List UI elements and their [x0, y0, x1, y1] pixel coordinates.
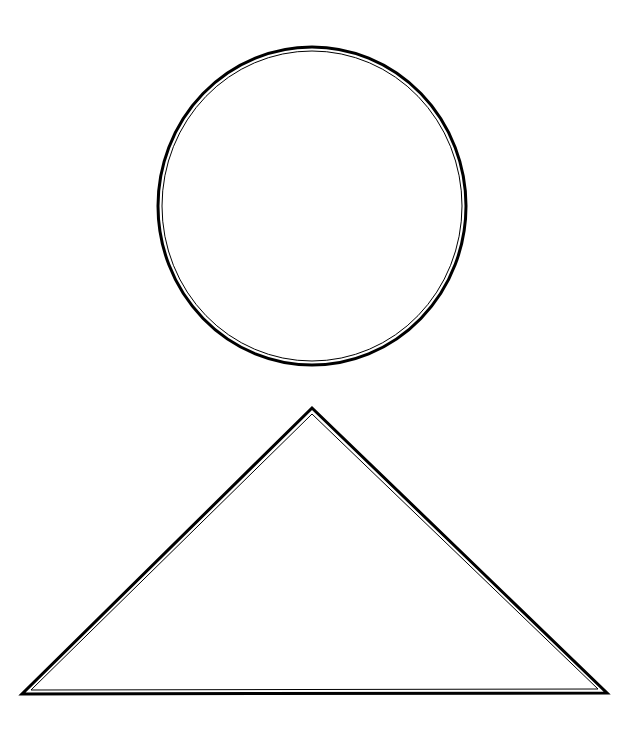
- diagram-canvas: [0, 0, 636, 733]
- circle-shape: [158, 47, 466, 365]
- circle-outer-outline: [158, 47, 466, 365]
